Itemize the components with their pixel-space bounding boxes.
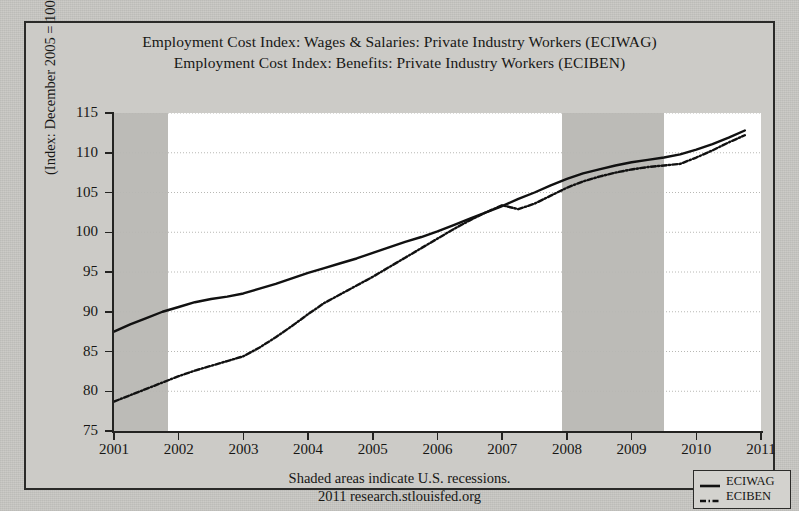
y-tick-mark: [105, 351, 112, 353]
x-tick-label: 2011: [731, 442, 791, 457]
x-tick-mark: [437, 433, 439, 440]
y-tick-mark: [105, 391, 112, 393]
chart-title: Employment Cost Index: Wages & Salaries:…: [26, 31, 773, 73]
chart-title-line-1: Employment Cost Index: Wages & Salaries:…: [26, 31, 773, 52]
y-tick-mark: [105, 192, 112, 194]
x-tick-label: 2010: [666, 442, 726, 457]
y-tick-label: 80: [54, 383, 98, 398]
chart-legend: ECIWAGECIBEN: [693, 470, 791, 509]
x-tick-mark: [696, 433, 698, 440]
plot-wrap: [114, 113, 761, 431]
y-tick-label: 100: [54, 224, 98, 239]
y-tick-label: 75: [54, 423, 98, 438]
x-tick-mark: [178, 433, 180, 440]
legend-swatch-eciwag: [699, 477, 721, 487]
x-tick-mark: [760, 433, 762, 440]
legend-swatch-eciben: [699, 492, 721, 502]
x-tick-label: 2007: [472, 442, 532, 457]
x-tick-label: 2008: [537, 442, 597, 457]
y-tick-label: 115: [54, 105, 98, 120]
series-lines: [114, 113, 761, 431]
series-line-eciwag: [114, 130, 745, 331]
y-tick-mark: [105, 232, 112, 234]
x-tick-label: 2009: [602, 442, 662, 457]
y-tick-mark: [105, 430, 112, 432]
plot-area: [114, 113, 761, 431]
x-tick-mark: [113, 433, 115, 440]
x-tick-label: 2006: [408, 442, 468, 457]
x-tick-mark: [243, 433, 245, 440]
x-tick-mark: [501, 433, 503, 440]
chart-frame: Employment Cost Index: Wages & Salaries:…: [24, 21, 775, 490]
recession-note: Shaded areas indicate U.S. recessions.: [26, 469, 773, 487]
x-tick-mark: [372, 433, 374, 440]
y-tick-mark: [105, 311, 112, 313]
y-axis-line: [112, 112, 114, 433]
source-note: 2011 research.stlouisfed.org: [26, 487, 773, 505]
legend-label: ECIWAG: [726, 475, 775, 488]
chart-title-line-2: Employment Cost Index: Benefits: Private…: [26, 52, 773, 73]
y-tick-label: 105: [54, 185, 98, 200]
y-tick-mark: [105, 152, 112, 154]
y-tick-mark: [105, 271, 112, 273]
x-tick-mark: [631, 433, 633, 440]
legend-label: ECIBEN: [726, 490, 771, 503]
legend-item: ECIWAG: [699, 474, 785, 489]
x-tick-label: 2001: [84, 442, 144, 457]
x-tick-mark: [307, 433, 309, 440]
x-tick-label: 2005: [343, 442, 403, 457]
chart-screenshot: Employment Cost Index: Wages & Salaries:…: [0, 0, 799, 511]
x-tick-mark: [566, 433, 568, 440]
x-tick-label: 2003: [213, 442, 273, 457]
y-tick-label: 85: [54, 344, 98, 359]
y-tick-label: 110: [54, 145, 98, 160]
y-tick-mark: [105, 112, 112, 114]
x-tick-label: 2002: [149, 442, 209, 457]
legend-item: ECIBEN: [699, 489, 785, 504]
y-tick-label: 95: [54, 264, 98, 279]
x-tick-label: 2004: [278, 442, 338, 457]
y-tick-label: 90: [54, 304, 98, 319]
series-line-eciben: [114, 135, 745, 401]
chart-footer: Shaded areas indicate U.S. recessions. 2…: [26, 469, 773, 505]
